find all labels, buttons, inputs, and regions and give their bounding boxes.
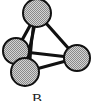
tetrahedral-molecule-diagram [0,0,96,101]
figure-label: B [32,92,42,101]
atom-node-bottom [11,58,39,86]
atom-nodes [3,0,90,86]
atom-node-top [23,0,51,27]
atom-node-right [64,45,90,71]
